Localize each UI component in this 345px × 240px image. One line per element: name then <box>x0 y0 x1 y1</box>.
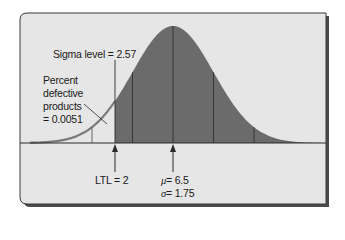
defective-line-2: defective <box>43 87 83 99</box>
ltl-label: LTL = 2 <box>95 174 128 186</box>
stddev-label: σ= 1.75 <box>161 187 194 200</box>
sigma-value: = 1.75 <box>166 187 194 199</box>
defective-line-4: = 0.0051 <box>43 113 83 125</box>
mu-value: = 6.5 <box>166 174 189 186</box>
sigma-level-label: Sigma level = 2.57 <box>53 48 136 60</box>
defective-line-1: Percent <box>43 74 78 86</box>
mean-label: μ= 6.5 <box>161 174 189 187</box>
defective-line-3: products <box>43 100 82 112</box>
